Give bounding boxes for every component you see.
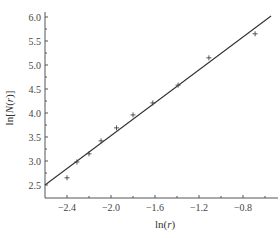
y-tick-label: 4.5 xyxy=(29,84,42,95)
axes: 2.53.03.54.04.55.05.56.0−2.4−2.0−1.6−1.2… xyxy=(29,12,279,214)
plus-marker-icon xyxy=(253,31,258,36)
x-tick-label: −2.4 xyxy=(58,202,76,213)
y-tick-label: 5.5 xyxy=(29,36,42,47)
data-points xyxy=(65,31,258,180)
y-tick-label: 4.0 xyxy=(29,108,42,119)
y-tick-label: 2.5 xyxy=(29,180,42,191)
plus-marker-icon xyxy=(131,112,136,117)
x-tick-label: −1.2 xyxy=(190,202,208,213)
plus-marker-icon xyxy=(87,151,92,156)
y-tick-label: 6.0 xyxy=(29,12,42,23)
y-tick-label: 3.0 xyxy=(29,156,42,167)
y-axis-label: ln[N(r)] xyxy=(3,91,16,126)
x-axis-label: ln(r) xyxy=(155,218,176,231)
x-tick-label: −1.6 xyxy=(146,202,164,213)
plus-marker-icon xyxy=(65,175,70,180)
x-tick-label: −2.0 xyxy=(102,202,120,213)
plus-marker-icon xyxy=(206,55,211,60)
scatter-chart: 2.53.03.54.04.55.05.56.0−2.4−2.0−1.6−1.2… xyxy=(0,0,280,238)
fit-line xyxy=(45,16,271,185)
y-tick-label: 3.5 xyxy=(29,132,42,143)
plus-marker-icon xyxy=(150,100,155,105)
plus-marker-icon xyxy=(99,138,104,143)
x-tick-label: −0.8 xyxy=(234,202,252,213)
regression-line xyxy=(45,16,271,185)
y-tick-label: 5.0 xyxy=(29,60,42,71)
